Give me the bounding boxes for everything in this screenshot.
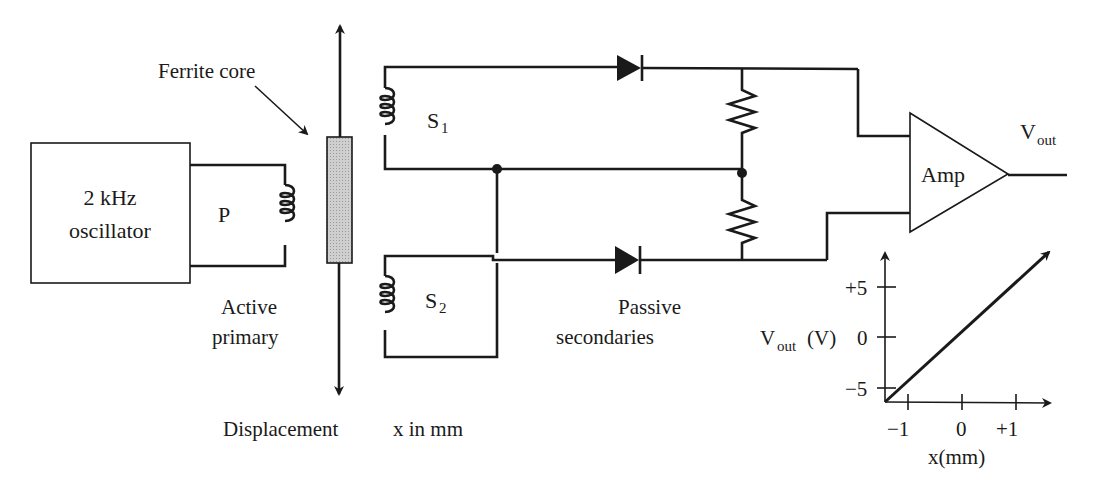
inductor-coil-icon — [381, 276, 395, 312]
svg-text:0: 0 — [857, 326, 868, 350]
vout-vs-x-chart: +5 0 −5 −1 0 +1 x(mm) V out (V) — [760, 252, 1050, 469]
resistor-top — [729, 69, 755, 173]
vout-line — [885, 252, 1049, 402]
amp-input-wire-minus — [827, 213, 910, 260]
junction-node — [492, 164, 502, 174]
svg-text:P: P — [218, 202, 230, 227]
amplifier: Amp V out — [910, 113, 1067, 232]
svg-text:secondaries: secondaries — [556, 325, 654, 349]
secondary-coil-s2: S 2 Passive secondaries — [381, 256, 682, 357]
svg-text:S: S — [425, 288, 437, 313]
lvdt-diagram: Ferrite core 2 kHz oscillator P Active p… — [0, 0, 1095, 492]
svg-text:1: 1 — [441, 120, 449, 136]
svg-text:x(mm): x(mm) — [928, 445, 985, 469]
x-axis-arrow-icon — [885, 402, 1050, 403]
oscillator-block: 2 kHz oscillator — [31, 143, 190, 283]
svg-text:oscillator: oscillator — [69, 218, 152, 243]
svg-text:Amp: Amp — [921, 162, 965, 187]
displacement-label: Displacement x in mm — [223, 417, 463, 441]
ferrite-core-label: Ferrite core — [158, 59, 307, 134]
primary-coil: P Active primary — [190, 165, 294, 349]
inductor-coil-icon — [381, 88, 395, 124]
svg-text:primary: primary — [212, 325, 279, 349]
svg-text:2 kHz: 2 kHz — [83, 185, 136, 210]
ferrite-core — [327, 26, 352, 394]
svg-text:S: S — [427, 108, 439, 133]
inductor-coil-icon — [281, 185, 295, 221]
svg-text:V: V — [1020, 119, 1036, 144]
svg-text:+1: +1 — [996, 417, 1018, 441]
resistor-bottom — [729, 173, 755, 260]
svg-text:+5: +5 — [845, 276, 867, 300]
svg-text:0: 0 — [956, 417, 967, 441]
svg-text:Ferrite core: Ferrite core — [158, 59, 255, 83]
svg-text:x in mm: x in mm — [393, 417, 463, 441]
svg-text:V: V — [760, 326, 775, 350]
svg-text:Displacement: Displacement — [223, 417, 339, 441]
svg-text:Passive: Passive — [618, 295, 681, 319]
svg-text:−5: −5 — [845, 377, 867, 401]
diode-top — [617, 55, 858, 81]
amp-input-wire-plus — [858, 69, 910, 136]
svg-text:out: out — [777, 338, 797, 354]
svg-text:2: 2 — [439, 300, 447, 316]
diode-bottom — [615, 246, 827, 274]
secondary-coil-s1: S 1 — [381, 67, 743, 169]
svg-text:(V): (V) — [807, 326, 836, 350]
pointer-arrow-icon — [255, 86, 307, 134]
svg-text:−1: −1 — [887, 417, 909, 441]
svg-text:Active: Active — [221, 295, 277, 319]
svg-text:out: out — [1037, 132, 1057, 148]
